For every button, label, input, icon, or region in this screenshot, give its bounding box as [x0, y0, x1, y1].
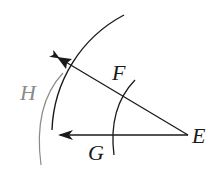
- small-arc-fg: [113, 80, 135, 155]
- gray-arc-h: [39, 73, 63, 165]
- label-f: F: [111, 60, 126, 85]
- label-g: G: [88, 140, 104, 165]
- label-h: H: [19, 80, 37, 105]
- label-e: E: [191, 123, 206, 148]
- angle-construction-diagram: E F G H: [0, 0, 208, 171]
